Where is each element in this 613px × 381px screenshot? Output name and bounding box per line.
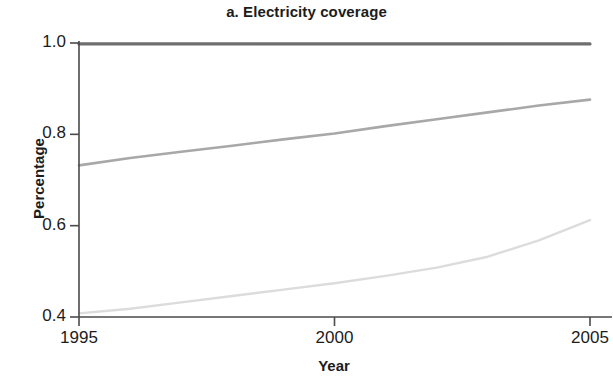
x-tick-label-2005: 2005 — [555, 328, 613, 348]
series-line-bottom — [79, 220, 590, 313]
plot-area — [0, 0, 613, 381]
figure-chart-electricity-coverage: a. Electricity coverage Percentage Year … — [0, 0, 613, 381]
y-tick-label-0.6: 0.6 — [20, 215, 66, 235]
x-tick-label-1995: 1995 — [44, 328, 114, 348]
y-tick-label-0.8: 0.8 — [20, 123, 66, 143]
series-lines — [79, 44, 590, 313]
x-tick-label-2000: 2000 — [300, 328, 370, 348]
y-tick-label-0.4: 0.4 — [20, 306, 66, 326]
y-tick-label-1.0: 1.0 — [20, 32, 66, 52]
series-line-middle — [79, 100, 590, 166]
